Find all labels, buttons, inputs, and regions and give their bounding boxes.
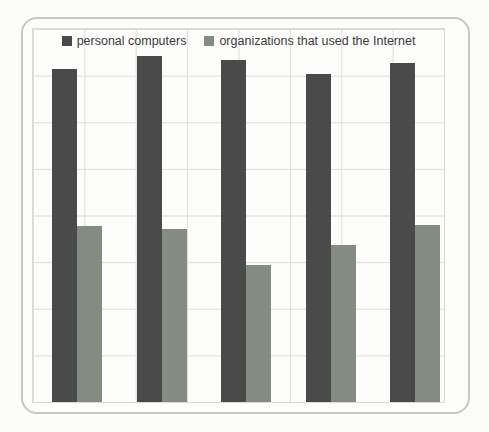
legend-label-personal-computers: personal computers bbox=[77, 34, 187, 48]
chart-frame: personal computers organizations that us… bbox=[21, 17, 470, 414]
bar-series2-group1 bbox=[77, 226, 102, 402]
legend-swatch-green-icon bbox=[204, 36, 214, 46]
chart-legend: personal computers organizations that us… bbox=[33, 34, 444, 48]
bar-series2-group5 bbox=[415, 225, 440, 402]
legend-swatch-dark-icon bbox=[62, 36, 72, 46]
legend-item-personal-computers: personal computers bbox=[62, 34, 187, 48]
legend-item-organizations-internet: organizations that used the Internet bbox=[204, 34, 415, 48]
bar-series1-group5 bbox=[390, 63, 415, 402]
legend-label-organizations-internet: organizations that used the Internet bbox=[219, 34, 415, 48]
bar-series1-group1 bbox=[52, 69, 77, 402]
bar-series1-group2 bbox=[137, 56, 162, 402]
bar-series2-group4 bbox=[331, 245, 356, 402]
bar-series2-group2 bbox=[162, 229, 187, 402]
bar-series1-group3 bbox=[221, 60, 246, 402]
plot-area: personal computers organizations that us… bbox=[32, 28, 445, 403]
bar-series1-group4 bbox=[306, 74, 331, 402]
bar-series2-group3 bbox=[246, 265, 271, 402]
